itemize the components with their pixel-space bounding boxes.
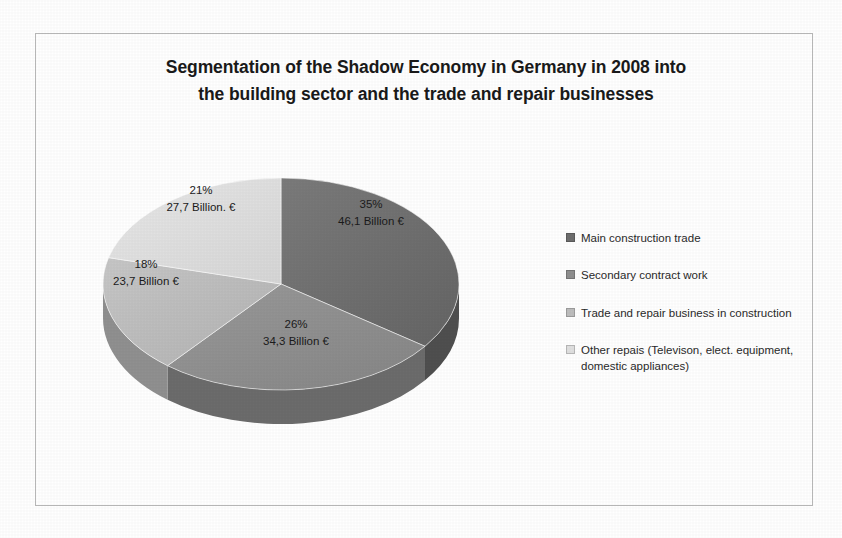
chart-title: Segmentation of the Shadow Economy in Ge…: [96, 54, 756, 108]
slice-percent: 35%: [311, 196, 431, 213]
slice-value: 34,3 Billion €: [236, 333, 356, 350]
legend-swatch-icon: [566, 270, 575, 279]
chart-frame: Segmentation of the Shadow Economy in Ge…: [35, 33, 813, 506]
chart-title-line-2: the building sector and the trade and re…: [96, 81, 756, 108]
legend-item-secondary-contract-work: Secondary contract work: [566, 267, 836, 283]
legend-item-main-construction-trade: Main construction trade: [566, 230, 836, 246]
legend-swatch-icon: [566, 233, 575, 242]
legend-swatch-icon: [566, 308, 575, 317]
slice-percent: 21%: [141, 182, 261, 199]
chart-legend: Main construction trade Secondary contra…: [566, 230, 836, 396]
slice-value: 46,1 Billion €: [311, 213, 431, 230]
slice-value: 27,7 Billion. €: [141, 199, 261, 216]
legend-item-label: Trade and repair business in constructio…: [581, 305, 792, 321]
chart-page: Segmentation of the Shadow Economy in Ge…: [0, 0, 842, 538]
slice-label-secondary-contract-work: 26% 34,3 Billion €: [236, 316, 356, 349]
chart-title-line-1: Segmentation of the Shadow Economy in Ge…: [96, 54, 756, 81]
pie-chart: 35% 46,1 Billion € 26% 34,3 Billion € 18…: [96, 154, 516, 444]
slice-value: 23,7 Billion €: [86, 273, 206, 290]
legend-item-label: Other repais (Televison, elect. equipmen…: [581, 342, 836, 375]
legend-item-label: Secondary contract work: [581, 267, 708, 283]
slice-percent: 18%: [86, 256, 206, 273]
slice-label-other-repairs: 21% 27,7 Billion. €: [141, 182, 261, 215]
legend-item-other-repairs: Other repais (Televison, elect. equipmen…: [566, 342, 836, 375]
legend-item-trade-and-repair-business: Trade and repair business in constructio…: [566, 305, 836, 321]
slice-label-main-construction-trade: 35% 46,1 Billion €: [311, 196, 431, 229]
slice-percent: 26%: [236, 316, 356, 333]
legend-item-label: Main construction trade: [581, 230, 701, 246]
slice-label-trade-and-repair-business: 18% 23,7 Billion €: [86, 256, 206, 289]
legend-swatch-icon: [566, 345, 575, 354]
